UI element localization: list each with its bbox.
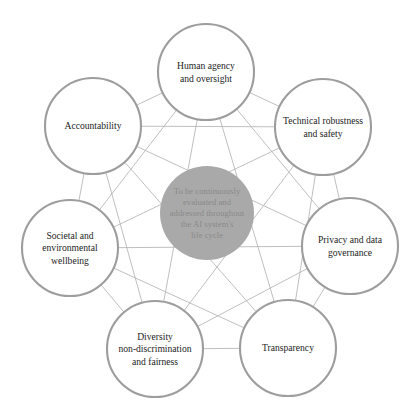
diagram-root: To be continuouslyevaluated andaddressed… bbox=[0, 0, 415, 409]
node-human-agency-and-oversight[interactable]: Human agencyand oversight bbox=[158, 24, 254, 120]
node-label-line: Societal and bbox=[46, 230, 93, 241]
node-technical-robustness-and-safety[interactable]: Technical robustnessand safety bbox=[275, 79, 371, 175]
connector-line bbox=[334, 174, 340, 199]
center-hub-label-line: evaluated and bbox=[183, 197, 232, 207]
connector-line bbox=[136, 93, 162, 106]
node-label-line: and safety bbox=[303, 128, 342, 139]
node-accountability[interactable]: Accountability bbox=[45, 78, 141, 174]
node-label-line: and fairness bbox=[132, 356, 178, 367]
connector-line bbox=[79, 173, 84, 201]
node-label-line: Human agency bbox=[177, 60, 235, 71]
connector-line bbox=[141, 126, 275, 127]
node-label-line: environmental bbox=[42, 242, 98, 253]
node-label-line: Privacy and data bbox=[318, 234, 383, 245]
node-societal-and-environmental-wellbeing[interactable]: Societal andenvironmentalwellbeing bbox=[22, 200, 118, 296]
node-privacy-and-data-governance[interactable]: Privacy and datagovernance bbox=[302, 198, 398, 294]
trustworthy-ai-wheel-diagram: To be continuouslyevaluated andaddressed… bbox=[0, 0, 415, 409]
node-label-line: Diversity bbox=[137, 331, 173, 342]
center-hub-label-line: the AI system's bbox=[181, 219, 234, 229]
node-label-line: Technical robustness bbox=[283, 115, 363, 126]
node-label-line: and oversight bbox=[180, 73, 232, 84]
node-transparency[interactable]: Transparency bbox=[240, 300, 336, 396]
connector-line bbox=[313, 287, 325, 307]
center-hub-label-line: addressed throughout bbox=[170, 208, 245, 218]
node-label-line: governance bbox=[328, 247, 372, 258]
node-label-line: Accountability bbox=[64, 120, 121, 131]
node-label-line: wellbeing bbox=[51, 255, 89, 266]
center-hub-label-line: life cycle bbox=[191, 230, 223, 240]
connector-line bbox=[101, 285, 124, 313]
center-hub-label-line: To be continuously bbox=[174, 186, 241, 196]
node-label-line: non-discrimination bbox=[118, 343, 191, 354]
center-hub-group: To be continuouslyevaluated andaddressed… bbox=[160, 166, 254, 260]
connector-line bbox=[249, 92, 279, 106]
node-diversity-non-discrimination-and-fairness[interactable]: Diversitynon-discriminationand fairness bbox=[107, 301, 203, 397]
node-label-line: Transparency bbox=[262, 342, 314, 353]
